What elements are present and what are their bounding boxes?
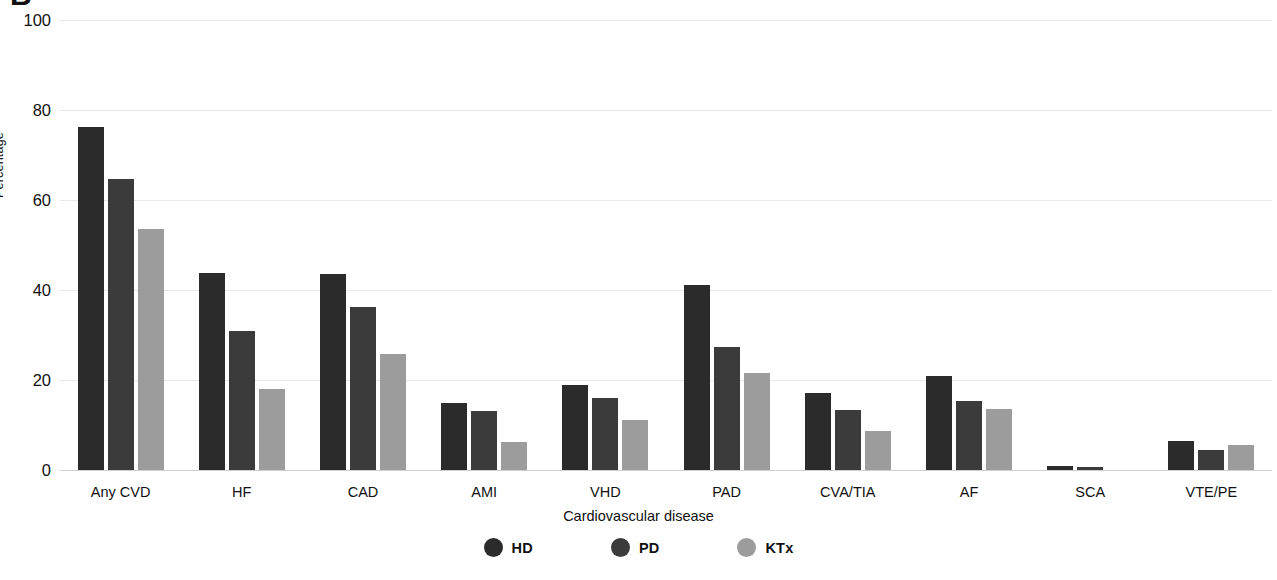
bar-group-bars — [302, 20, 423, 470]
x-axis-tick-label: AF — [908, 484, 1029, 500]
legend-label: PD — [639, 540, 660, 556]
bar-pd-any-cvd — [108, 179, 134, 470]
bar-ktx-pad — [744, 373, 770, 470]
x-axis-label: Cardiovascular disease — [0, 508, 1277, 524]
y-axis-tick-label: 0 — [5, 462, 51, 478]
legend-label: KTx — [765, 540, 793, 556]
x-axis-tick-label: PAD — [666, 484, 787, 500]
bar-group: CVA/TIA — [787, 20, 908, 470]
circle-marker-icon — [484, 538, 503, 557]
bar-ktx-vhd — [622, 420, 648, 470]
bar-group: SCA — [1030, 20, 1151, 470]
bar-pd-vte-pe — [1198, 450, 1224, 470]
bar-hd-vhd — [562, 385, 588, 471]
bar-group: Any CVD — [60, 20, 181, 470]
bar-hd-cva-tia — [805, 393, 831, 470]
y-axis-tick-label: 80 — [5, 102, 51, 118]
bar-pd-pad — [714, 347, 740, 470]
bar-ktx-cva-tia — [865, 431, 891, 470]
x-axis-tick-label: CVA/TIA — [787, 484, 908, 500]
bar-group: AF — [908, 20, 1029, 470]
bar-hd-sca — [1047, 466, 1073, 471]
bar-ktx-ami — [501, 442, 527, 470]
bar-hd-af — [926, 376, 952, 471]
bar-group-bars — [1151, 20, 1272, 470]
circle-marker-icon — [737, 538, 756, 557]
bar-pd-vhd — [592, 398, 618, 470]
bar-group-bars — [60, 20, 181, 470]
bar-group-bars — [1030, 20, 1151, 470]
bar-pd-ami — [471, 411, 497, 470]
bar-group: PAD — [666, 20, 787, 470]
bar-pd-cad — [350, 307, 376, 470]
x-axis-tick-label: SCA — [1030, 484, 1151, 500]
bar-group: CAD — [302, 20, 423, 470]
bar-hd-pad — [684, 285, 710, 470]
bar-pd-hf — [229, 331, 255, 470]
x-axis-tick-label: VHD — [545, 484, 666, 500]
x-axis-tick-label: Any CVD — [60, 484, 181, 500]
legend-label: HD — [512, 540, 533, 556]
bar-group-bars — [424, 20, 545, 470]
bar-hd-cad — [320, 274, 346, 470]
legend-item-pd: PD — [611, 538, 660, 557]
bar-hd-hf — [199, 273, 225, 470]
x-axis-tick-label: AMI — [424, 484, 545, 500]
legend-item-ktx: KTx — [737, 538, 793, 557]
bar-pd-af — [956, 401, 982, 470]
y-axis-tick-label: 20 — [5, 372, 51, 388]
bar-group-bars — [545, 20, 666, 470]
bar-group-bars — [787, 20, 908, 470]
bar-group-bars — [666, 20, 787, 470]
bar-ktx-vte-pe — [1228, 445, 1254, 470]
y-axis-tick-label: 60 — [5, 192, 51, 208]
bar-pd-sca — [1077, 467, 1103, 470]
bar-ktx-af — [986, 409, 1012, 470]
x-axis-tick-label: VTE/PE — [1151, 484, 1272, 500]
chart-legend: HDPDKTx — [0, 538, 1277, 557]
circle-marker-icon — [611, 538, 630, 557]
bar-ktx-hf — [259, 389, 285, 470]
bar-group-bars — [908, 20, 1029, 470]
bar-group-bars — [181, 20, 302, 470]
bar-group: HF — [181, 20, 302, 470]
x-axis-tick-label: HF — [181, 484, 302, 500]
y-axis-tick-label: 100 — [5, 12, 51, 28]
gridline-0 — [60, 470, 1272, 471]
y-axis-label: Percentage — [0, 132, 6, 198]
bar-group: AMI — [424, 20, 545, 470]
y-axis-tick-label: 40 — [5, 282, 51, 298]
bar-ktx-cad — [380, 354, 406, 470]
bar-hd-vte-pe — [1168, 441, 1194, 470]
legend-item-hd: HD — [484, 538, 533, 557]
bar-chart-figure: B Percentage 020406080100Any CVDHFCADAMI… — [0, 0, 1277, 580]
x-axis-tick-label: CAD — [302, 484, 423, 500]
bar-hd-ami — [441, 403, 467, 471]
bar-pd-cva-tia — [835, 410, 861, 470]
bar-ktx-any-cvd — [138, 229, 164, 470]
bar-group: VTE/PE — [1151, 20, 1272, 470]
plot-area: 020406080100Any CVDHFCADAMIVHDPADCVA/TIA… — [60, 20, 1272, 470]
bar-group: VHD — [545, 20, 666, 470]
bar-hd-any-cvd — [78, 127, 104, 470]
panel-label: B — [10, 0, 32, 10]
